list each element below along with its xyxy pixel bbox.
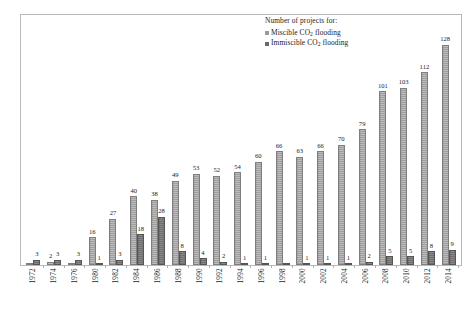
bar-immisc-1980[interactable]: 1 bbox=[96, 15, 103, 265]
bar-misc-2006[interactable]: 79 bbox=[359, 15, 366, 265]
x-axis-tick-label: 1972 bbox=[29, 268, 37, 284]
bar-misc-2002[interactable]: 66 bbox=[317, 15, 324, 265]
bar-value-label: 3 bbox=[56, 251, 59, 258]
x-tick-group: 2008 bbox=[376, 268, 397, 310]
bar-immisc-1996[interactable]: 1 bbox=[262, 15, 269, 265]
bar-immisc-1988[interactable]: 8 bbox=[179, 15, 186, 265]
bar-misc-2000[interactable]: 63 bbox=[296, 15, 303, 265]
bar-rect[interactable] bbox=[359, 129, 366, 265]
bar-misc-1990[interactable]: 53 bbox=[193, 15, 200, 265]
bar-immisc-1976[interactable]: 3 bbox=[75, 15, 82, 265]
bar-series-container: 3233161273401838284985345225416016663166… bbox=[21, 15, 461, 265]
x-tick-group: 2010 bbox=[397, 268, 418, 310]
bar-rect[interactable] bbox=[151, 200, 158, 265]
x-axis-tick-label: 2012 bbox=[424, 268, 432, 284]
x-axis-tick-label: 1974 bbox=[50, 268, 58, 284]
bar-value-label: 52 bbox=[213, 167, 220, 174]
bar-value-label: 8 bbox=[181, 243, 184, 250]
bar-rect[interactable] bbox=[193, 174, 200, 265]
bar-rect[interactable] bbox=[179, 251, 186, 265]
bar-rect[interactable] bbox=[276, 151, 283, 265]
bar-rect[interactable] bbox=[442, 45, 449, 265]
bar-rect[interactable] bbox=[234, 172, 241, 265]
bar-misc-1984[interactable]: 40 bbox=[130, 15, 137, 265]
bar-value-label: 49 bbox=[172, 172, 179, 179]
bar-misc-2012[interactable]: 112 bbox=[421, 15, 428, 265]
bar-rect[interactable] bbox=[386, 256, 393, 265]
bar-misc-2010[interactable]: 103 bbox=[400, 15, 407, 265]
bar-immisc-1984[interactable]: 18 bbox=[137, 15, 144, 265]
bar-group: 631 bbox=[293, 15, 314, 265]
bar-misc-1988[interactable]: 49 bbox=[172, 15, 179, 265]
bar-misc-1972[interactable] bbox=[26, 15, 33, 265]
bar-rect[interactable] bbox=[137, 234, 144, 265]
bar-rect[interactable] bbox=[172, 181, 179, 265]
x-axis-tick-label: 1982 bbox=[112, 268, 120, 284]
bar-rect[interactable] bbox=[400, 88, 407, 265]
chart-root: 3233161273401838284985345225416016663166… bbox=[0, 0, 474, 312]
chart-legend: Number of projects for: Miscible CO2 flo… bbox=[265, 16, 348, 49]
x-tick-group: 2000 bbox=[293, 268, 314, 310]
x-tick-group: 2002 bbox=[314, 268, 335, 310]
bar-rect[interactable] bbox=[428, 251, 435, 265]
bar-rect[interactable] bbox=[296, 157, 303, 265]
bar-immisc-2014[interactable]: 9 bbox=[449, 15, 456, 265]
bar-rect[interactable] bbox=[407, 256, 414, 265]
bar-rect[interactable] bbox=[200, 258, 207, 265]
bar-rect[interactable] bbox=[379, 91, 386, 265]
bar-rect[interactable] bbox=[317, 151, 324, 265]
bar-value-label: 28 bbox=[158, 208, 165, 215]
bar-immisc-1972[interactable]: 3 bbox=[33, 15, 40, 265]
bar-value-label: 5 bbox=[388, 248, 391, 255]
bar-misc-1974[interactable]: 2 bbox=[47, 15, 54, 265]
bar-immisc-1998[interactable] bbox=[283, 15, 290, 265]
bar-misc-1986[interactable]: 38 bbox=[151, 15, 158, 265]
bar-immisc-2006[interactable]: 2 bbox=[366, 15, 373, 265]
bar-immisc-2004[interactable]: 1 bbox=[345, 15, 352, 265]
bar-rect[interactable] bbox=[255, 162, 262, 265]
bar-misc-1992[interactable]: 52 bbox=[213, 15, 220, 265]
x-axis-tick-label: 1994 bbox=[237, 268, 245, 284]
bar-group: 661 bbox=[314, 15, 335, 265]
bar-misc-1994[interactable]: 54 bbox=[234, 15, 241, 265]
bar-value-label: 1 bbox=[305, 255, 308, 262]
bar-rect[interactable] bbox=[338, 145, 345, 266]
bar-immisc-1982[interactable]: 3 bbox=[116, 15, 123, 265]
bar-immisc-2000[interactable]: 1 bbox=[303, 15, 310, 265]
x-tick-group: 1998 bbox=[272, 268, 293, 310]
bar-misc-1976[interactable] bbox=[68, 15, 75, 265]
bar-immisc-1974[interactable]: 3 bbox=[54, 15, 61, 265]
bar-immisc-1990[interactable]: 4 bbox=[200, 15, 207, 265]
bar-misc-2014[interactable]: 128 bbox=[442, 15, 449, 265]
bar-misc-1996[interactable]: 60 bbox=[255, 15, 262, 265]
bar-immisc-2010[interactable]: 5 bbox=[407, 15, 414, 265]
bar-value-label: 1 bbox=[326, 255, 329, 262]
bar-immisc-2002[interactable]: 1 bbox=[324, 15, 331, 265]
bar-rect[interactable] bbox=[449, 250, 456, 265]
bar-rect[interactable] bbox=[89, 237, 96, 265]
bar-rect[interactable] bbox=[158, 217, 165, 265]
bar-misc-1982[interactable]: 27 bbox=[109, 15, 116, 265]
bar-immisc-2012[interactable]: 8 bbox=[428, 15, 435, 265]
bar-immisc-1994[interactable]: 1 bbox=[241, 15, 248, 265]
bar-misc-1998[interactable]: 66 bbox=[276, 15, 283, 265]
bar-rect[interactable] bbox=[213, 176, 220, 266]
bar-group: 1289 bbox=[438, 15, 459, 265]
bar-rect[interactable] bbox=[421, 72, 428, 265]
bar-rect[interactable] bbox=[109, 219, 116, 265]
bar-group: 161 bbox=[85, 15, 106, 265]
x-axis-tick-label: 2006 bbox=[362, 268, 370, 284]
legend-label-miscible: Miscible CO2 flooding bbox=[271, 28, 341, 39]
bar-immisc-1986[interactable]: 28 bbox=[158, 15, 165, 265]
bar-immisc-1992[interactable]: 2 bbox=[220, 15, 227, 265]
bar-immisc-2008[interactable]: 5 bbox=[386, 15, 393, 265]
x-axis-tick-label: 1998 bbox=[279, 268, 287, 284]
bar-group: 541 bbox=[231, 15, 252, 265]
x-axis-tick-label: 1986 bbox=[154, 268, 162, 284]
bar-value-label: 2 bbox=[367, 253, 370, 260]
bar-misc-1980[interactable]: 16 bbox=[89, 15, 96, 265]
bar-misc-2004[interactable]: 70 bbox=[338, 15, 345, 265]
x-tick-group: 1994 bbox=[231, 268, 252, 310]
bar-rect[interactable] bbox=[130, 196, 137, 265]
bar-misc-2008[interactable]: 101 bbox=[379, 15, 386, 265]
